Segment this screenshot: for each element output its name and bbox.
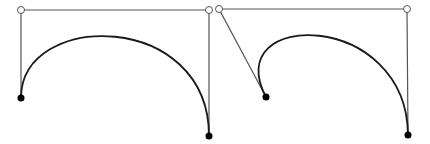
control-point-1[interactable] — [216, 6, 223, 13]
bezier-diagram — [0, 0, 430, 144]
start-anchor-point[interactable] — [263, 94, 270, 101]
end-anchor-point[interactable] — [405, 132, 412, 139]
bezier-curve — [21, 36, 209, 136]
bezier-panel-right — [216, 6, 412, 139]
bezier-panel-left — [18, 7, 213, 140]
end-anchor-point[interactable] — [206, 133, 213, 140]
control-point-2[interactable] — [206, 7, 213, 14]
start-anchor-point[interactable] — [18, 95, 25, 102]
control-point-1[interactable] — [18, 7, 25, 14]
control-polygon — [219, 9, 408, 135]
bezier-curve — [258, 35, 408, 135]
control-point-2[interactable] — [404, 6, 411, 13]
control-polygon — [21, 10, 209, 136]
